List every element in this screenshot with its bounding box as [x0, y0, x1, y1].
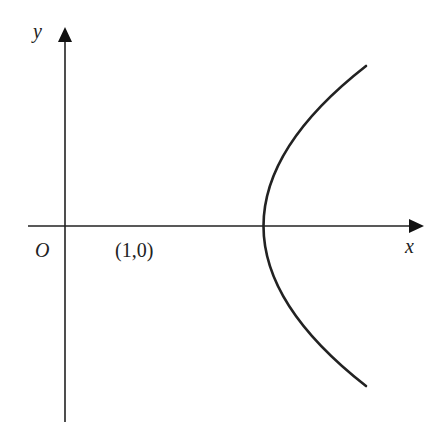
x-axis-arrow-icon [409, 219, 424, 233]
y-axis [58, 27, 72, 422]
x-axis-label: x [404, 235, 414, 257]
origin-label: O [35, 239, 49, 261]
parabola-diagram: y x O (1,0) [0, 0, 445, 443]
y-axis-arrow-icon [58, 27, 72, 42]
x-axis [28, 219, 424, 233]
y-axis-label: y [31, 20, 42, 43]
vertex-label: (1,0) [115, 239, 153, 262]
